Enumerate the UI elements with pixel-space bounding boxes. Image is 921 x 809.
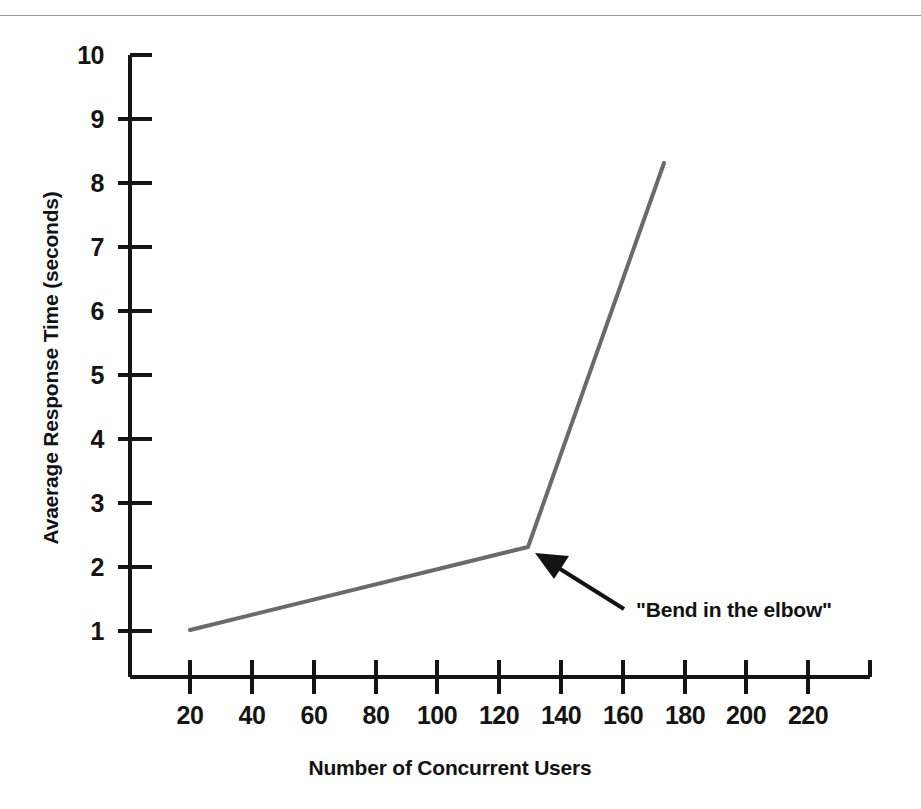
y-tick-label-4: 4: [91, 425, 105, 453]
x-tick-label-20: 20: [177, 701, 204, 729]
y-tick-label-10: 10: [77, 41, 104, 69]
y-axis: 10 9 8 7 6 5 4 3 2 1 Avaerage Response T…: [39, 41, 152, 677]
x-axis-tick-labels: 20 40 60 80 100 120 140 160 180 200 220: [177, 701, 829, 729]
x-tick-label-100: 100: [417, 701, 457, 729]
response-time-line: [190, 163, 664, 630]
y-axis-tick-labels: 10 9 8 7 6 5 4 3 2 1: [77, 41, 104, 645]
y-tick-label-3: 3: [91, 489, 104, 517]
x-axis-title: Number of Concurrent Users: [308, 756, 591, 779]
x-tick-label-60: 60: [301, 701, 328, 729]
y-tick-label-8: 8: [91, 169, 105, 197]
x-tick-label-40: 40: [239, 701, 266, 729]
x-axis: 20 40 60 80 100 120 140 160 180 200 220 …: [130, 660, 870, 779]
annotation-arrow-head: [535, 553, 569, 579]
x-tick-label-220: 220: [788, 701, 828, 729]
x-tick-label-140: 140: [541, 701, 581, 729]
y-axis-ticks: [118, 55, 152, 631]
x-tick-label-120: 120: [479, 701, 519, 729]
y-tick-label-2: 2: [91, 553, 104, 581]
x-tick-label-200: 200: [726, 701, 766, 729]
y-tick-label-6: 6: [91, 297, 104, 325]
y-tick-label-9: 9: [91, 105, 104, 133]
annotation-text: "Bend in the elbow": [636, 598, 832, 621]
y-axis-title: Avaerage Response Time (seconds): [39, 191, 62, 544]
x-tick-label-180: 180: [665, 701, 705, 729]
line-chart-canvas: 10 9 8 7 6 5 4 3 2 1 Avaerage Response T…: [0, 0, 921, 809]
x-tick-label-160: 160: [603, 701, 643, 729]
chart-figure: 10 9 8 7 6 5 4 3 2 1 Avaerage Response T…: [0, 0, 921, 809]
y-tick-label-7: 7: [91, 233, 104, 261]
y-tick-label-1: 1: [91, 617, 105, 645]
data-series-average-response-time: [190, 163, 664, 630]
x-tick-label-80: 80: [363, 701, 390, 729]
y-tick-label-5: 5: [91, 361, 105, 389]
arrow-up-left-icon: [535, 553, 624, 609]
elbow-annotation: "Bend in the elbow": [535, 553, 832, 621]
